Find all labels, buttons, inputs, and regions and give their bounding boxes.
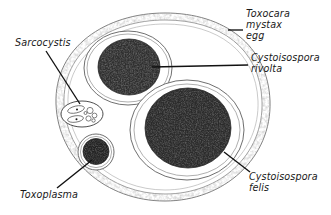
label-toxoplasma-line1: Toxoplasma: [20, 189, 78, 200]
toxoplasma-oocyst: [78, 134, 114, 170]
label-sarcocystis-line1: Sarcocystis: [15, 37, 71, 48]
rivolta-sporont: [98, 39, 160, 95]
label-felis-line1: Cystoisospora: [249, 171, 318, 182]
label-toxocara-line2: mystax: [246, 19, 282, 30]
parasite-size-comparison-figure: Toxocara mystax egg Cystoisospora rivolt…: [0, 0, 331, 215]
label-toxoplasma: Toxoplasma: [20, 189, 78, 200]
sarcocystis-sporocyst: [61, 101, 103, 127]
toxoplasma-sporont: [83, 139, 109, 165]
label-toxocara-line3: egg: [246, 30, 264, 41]
leader-toxoplasma: [57, 160, 92, 188]
label-cystoisospora-felis: Cystoisospora felis: [249, 171, 318, 193]
felis-sporont: [145, 88, 231, 168]
label-toxocara-line1: Toxocara: [246, 8, 290, 19]
figure-canvas: Toxocara mystax egg Cystoisospora rivolt…: [0, 0, 331, 215]
label-sarcocystis: Sarcocystis: [15, 37, 71, 48]
cystoisospora-felis-oocyst: [130, 80, 244, 180]
label-toxocara-mystax-egg: Toxocara mystax egg: [246, 8, 290, 41]
label-cystoisospora-rivolta: Cystoisospora rivolta: [251, 52, 320, 74]
label-felis-line2: felis: [249, 182, 269, 193]
label-rivolta-line2: rivolta: [251, 63, 282, 74]
label-rivolta-line1: Cystoisospora: [251, 52, 320, 63]
